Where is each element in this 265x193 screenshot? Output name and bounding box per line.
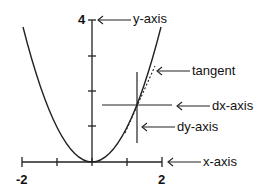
x-tick-label-neg2: -2 [16, 173, 28, 186]
arrow-x-axis [168, 158, 201, 166]
label-x-axis: x-axis [203, 155, 237, 168]
label-dy-axis: dy-axis [177, 120, 218, 133]
arrow-dy-axis [142, 123, 175, 131]
arrow-dx-axis [177, 102, 210, 110]
y-axis [88, 20, 96, 162]
x-tick-label-2: 2 [158, 173, 165, 186]
arrow-tangent [157, 67, 190, 75]
label-dx-axis: dx-axis [212, 99, 253, 112]
diagram-canvas: 4 -2 2 y-axis tangent dx-axis dy-axis x-… [0, 0, 265, 193]
arrow-y-axis [98, 16, 131, 24]
y-tick-label-4: 4 [78, 13, 85, 26]
label-tangent: tangent [192, 64, 235, 77]
label-y-axis: y-axis [133, 12, 167, 25]
